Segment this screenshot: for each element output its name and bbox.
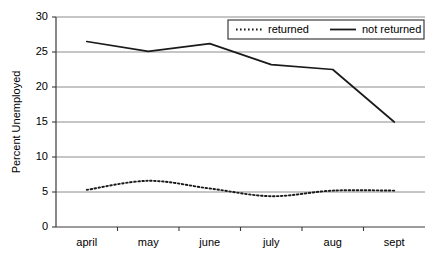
series-line-returned [87, 181, 395, 196]
series-line-not-returned [87, 42, 395, 123]
x-tick-label: sept [384, 236, 405, 248]
y-axis-title: Percent Unemployed [10, 71, 22, 174]
x-tick-label: june [198, 236, 220, 248]
x-tick-label: april [76, 236, 97, 248]
x-tick-label: aug [324, 236, 342, 248]
y-tick-label: 30 [36, 10, 48, 22]
x-tick-label: july [262, 236, 280, 248]
legend-label-returned: returned [268, 23, 309, 35]
y-tick-label: 10 [36, 150, 48, 162]
x-tick-label: may [138, 236, 159, 248]
x-axis-ticks: aprilmayjunejulyaugsept [76, 227, 404, 248]
y-tick-label: 15 [36, 115, 48, 127]
y-tick-label: 25 [36, 45, 48, 57]
chart-legend: returned not returned [228, 20, 424, 39]
y-tick-label: 0 [42, 220, 48, 232]
chart-container: 051015202530 aprilmayjunejulyaugsept Per… [0, 0, 441, 258]
legend-label-not-returned: not returned [362, 23, 421, 35]
y-axis-ticks: 051015202530 [36, 10, 56, 232]
gridlines [56, 17, 425, 192]
y-tick-label: 5 [42, 185, 48, 197]
line-chart: 051015202530 aprilmayjunejulyaugsept Per… [0, 0, 441, 258]
y-tick-label: 20 [36, 80, 48, 92]
